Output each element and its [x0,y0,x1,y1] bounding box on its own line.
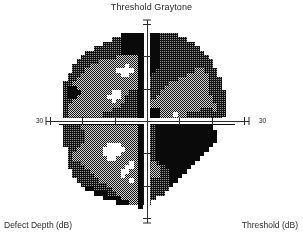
defect-depth-label: Defect Depth (dB) [4,220,72,230]
threshold-label: Threshold (dB) [242,220,298,230]
page-title: Threshold Graytone [0,2,303,12]
threshold-graytone-plot [0,0,303,235]
x-axis-tick-label-left: 30 [36,118,43,125]
x-axis-tick-label-right: 30 [259,118,266,125]
